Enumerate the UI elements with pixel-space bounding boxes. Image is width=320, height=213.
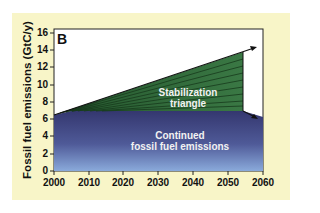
y-tick: 6 <box>32 113 48 124</box>
y-tick: 8 <box>32 96 48 107</box>
continued-label-line2: fossil fuel emissions <box>110 141 250 152</box>
continued-emissions-label: Continued fossil fuel emissions <box>110 130 250 152</box>
y-tick: 10 <box>32 79 48 90</box>
continued-label-line1: Continued <box>110 130 250 141</box>
y-tick: 4 <box>32 130 48 141</box>
x-tick: 2000 <box>39 177 69 188</box>
x-tick: 2040 <box>178 177 208 188</box>
y-tick: 12 <box>32 61 48 72</box>
y-tick: 14 <box>32 44 48 55</box>
panel-letter: B <box>57 31 67 47</box>
x-tick: 2030 <box>143 177 173 188</box>
triangle-label-line1: Stabilization <box>148 87 228 98</box>
triangle-label-line2: triangle <box>148 98 228 109</box>
x-tick: 2010 <box>74 177 104 188</box>
triangle-label: Stabilization triangle <box>148 87 228 109</box>
y-tick: 16 <box>32 27 48 38</box>
y-tick: 2 <box>32 148 48 159</box>
x-tick: 2020 <box>108 177 138 188</box>
x-tick: 2060 <box>248 177 278 188</box>
x-tick: 2050 <box>213 177 243 188</box>
y-tick: 0 <box>32 165 48 176</box>
